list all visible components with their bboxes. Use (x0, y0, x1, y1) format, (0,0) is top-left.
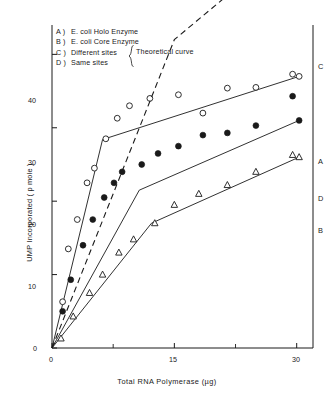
legend-label: E. coli Holo Enzyme (71, 27, 138, 37)
legend-key: D ) (56, 58, 71, 68)
x-tick-label-30: 30 (292, 355, 300, 364)
x-axis-label: Total RNA Polymerase (µg) (0, 377, 334, 386)
legend-label: Same sites (71, 58, 108, 68)
y-tick-label-10: 10 (28, 282, 36, 291)
legend-key: A ) (56, 27, 71, 37)
x-tick-label-0: 0 (49, 355, 53, 364)
plot-area (0, 0, 334, 403)
curve-label-c: C (318, 62, 323, 71)
legend: A ) E. coli Holo Enzyme B ) E. coli Core… (56, 27, 139, 69)
y-tick-label-40: 40 (28, 96, 36, 105)
legend-key: C ) (56, 48, 71, 58)
x-tick-label-15: 15 (169, 355, 177, 364)
legend-label: Different sites (71, 48, 117, 58)
legend-item: C ) Different sites (56, 48, 139, 58)
curve-label-d: D (318, 194, 323, 203)
y-tick-label-20: 20 (28, 220, 36, 229)
theoretical-brace (128, 45, 135, 70)
legend-item: D ) Same sites (56, 58, 139, 68)
curve-label-b: B (318, 226, 323, 235)
curve-label-a: A (318, 157, 323, 166)
legend-key: B ) (56, 37, 71, 47)
y-tick-label-0: 0 (33, 344, 37, 353)
legend-item: A ) E. coli Holo Enzyme (56, 27, 139, 37)
theoretical-curve-note: Theoretical curve (136, 47, 194, 56)
y-tick-label-30: 30 (28, 158, 36, 167)
legend-item: B ) E. coli Core Enzyme (56, 37, 139, 47)
figure-container: A ) E. coli Holo Enzyme B ) E. coli Core… (0, 0, 334, 403)
